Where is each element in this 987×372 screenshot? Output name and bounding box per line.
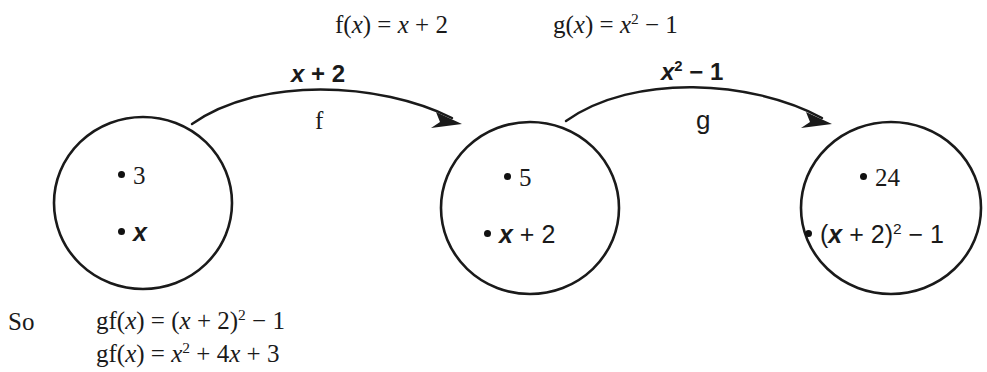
bullet-icon <box>805 230 812 237</box>
bullet-icon <box>860 173 867 180</box>
set-3-element-0: 24 <box>860 165 900 190</box>
conclusion-line-0: gf(x) = (x + 2)2 − 1 <box>96 308 285 333</box>
set-3-element-0-label: 24 <box>875 165 900 190</box>
arrow-g-bottom-label: g <box>696 107 710 133</box>
bullet-icon <box>504 173 511 180</box>
bullet-icon <box>484 230 491 237</box>
arrow-f-top-label: x + 2 <box>291 62 345 86</box>
arrow-f-bottom-label: f <box>315 108 323 133</box>
arrow-g-path <box>566 87 822 121</box>
bullet-icon <box>118 228 125 235</box>
set-2-element-1-label: x + 2 <box>499 222 555 247</box>
g-definition: g(x) = x2 − 1 <box>553 12 678 37</box>
set-circle-3 <box>801 122 981 294</box>
set-2-element-1: x + 2 <box>484 222 555 247</box>
conclusion-lead-in: So <box>8 309 34 334</box>
set-2-element-0-label: 5 <box>519 165 532 190</box>
arrow-g-top-label: x2 − 1 <box>661 60 723 84</box>
set-1-element-1-label: x <box>133 220 147 245</box>
set-circle-1 <box>54 117 232 289</box>
set-circle-2 <box>441 122 619 294</box>
set-3-element-1-label: (x + 2)2 − 1 <box>820 222 944 247</box>
set-1-element-0-label: 3 <box>133 163 146 188</box>
conclusion-line-1: gf(x) = x2 + 4x + 3 <box>96 341 279 366</box>
f-definition: f(x) = x + 2 <box>335 12 448 37</box>
set-2-element-0: 5 <box>504 165 532 190</box>
set-3-element-1: (x + 2)2 − 1 <box>805 222 944 247</box>
composite-function-diagram: f(x) = x + 2 g(x) = x2 − 1 x + 2 f x2 − … <box>0 0 987 372</box>
set-1-element-0: 3 <box>118 163 146 188</box>
set-1-element-1: x <box>118 220 147 245</box>
bullet-icon <box>118 171 125 178</box>
